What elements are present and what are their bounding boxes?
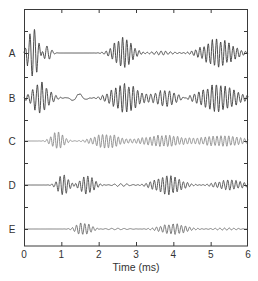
row-label-c: C (8, 136, 15, 147)
waveform-chart: 0123456 ABCDE Time (ms) (0, 0, 258, 281)
trace-d (24, 175, 248, 195)
trace-a (24, 29, 248, 76)
x-axis-ticks (62, 9, 211, 246)
x-tick-label: 3 (133, 249, 139, 260)
x-axis-title: Time (ms) (113, 261, 160, 273)
trace-c (24, 132, 248, 148)
row-label-e: E (9, 224, 16, 235)
x-tick-label: 2 (96, 249, 102, 260)
x-tick-label: 5 (208, 249, 214, 260)
y-axis-ticks (24, 32, 248, 230)
trace-group (24, 29, 248, 234)
row-label-a: A (9, 48, 16, 59)
x-tick-label: 0 (21, 249, 27, 260)
trace-e (24, 223, 248, 234)
plot-frame (25, 10, 248, 247)
x-tick-label: 1 (59, 249, 65, 260)
row-label-d: D (8, 180, 15, 191)
row-label-b: B (9, 93, 16, 104)
trace-b (24, 82, 248, 113)
x-tick-label: 6 (245, 249, 251, 260)
x-tick-label: 4 (171, 249, 177, 260)
x-axis-tick-labels: 0123456 (21, 249, 251, 260)
row-labels: ABCDE (8, 48, 15, 235)
